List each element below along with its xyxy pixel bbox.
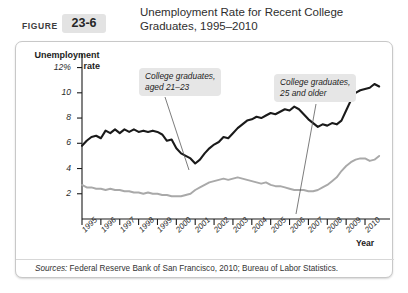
figure-number-badge: 23-6 xyxy=(62,14,106,33)
y-tick-label: 12% xyxy=(37,62,71,72)
figure-header: FIGURE 23-6 Unemployment Rate for Recent… xyxy=(0,0,408,42)
figure-title: Unemployment Rate for Recent College Gra… xyxy=(140,5,402,33)
chart-plot-area: Unemployment rate Year 12%108642 1995199… xyxy=(16,42,394,259)
callout-young-line2: aged 21–23 xyxy=(145,82,215,93)
figure-container: FIGURE 23-6 Unemployment Rate for Recent… xyxy=(0,0,408,293)
callout-older-line2: 25 and older xyxy=(280,88,350,99)
y-tick-label: 10 xyxy=(37,87,71,97)
y-tick-label: 2 xyxy=(37,188,71,198)
callout-young-line1: College graduates, xyxy=(145,71,215,82)
sources-label: Sources: xyxy=(35,264,67,273)
sources-text: Federal Reserve Bank of San Francisco, 2… xyxy=(67,264,338,273)
callout-older-graduates: College graduates, 25 and older xyxy=(274,74,356,102)
figure-title-line1: Unemployment Rate for Recent College xyxy=(140,6,343,18)
figure-number-text: 23-6 xyxy=(62,14,106,33)
figure-word-label: FIGURE xyxy=(22,21,58,31)
sources-note: Sources: Federal Reserve Bank of San Fra… xyxy=(35,264,338,273)
chart-callout-leaders xyxy=(165,97,316,214)
callout-young-graduates: College graduates, aged 21–23 xyxy=(139,68,221,96)
figure-panel: Unemployment rate Year 12%108642 1995199… xyxy=(15,41,393,278)
panel-divider xyxy=(16,259,394,260)
y-tick-label: 8 xyxy=(37,112,71,122)
y-tick-label: 4 xyxy=(37,163,71,173)
y-tick-label: 6 xyxy=(37,137,71,147)
callout-older-line1: College graduates, xyxy=(280,77,350,88)
figure-title-line2: Graduates, 1995–2010 xyxy=(140,19,402,33)
chart-y-ticks xyxy=(77,68,82,194)
